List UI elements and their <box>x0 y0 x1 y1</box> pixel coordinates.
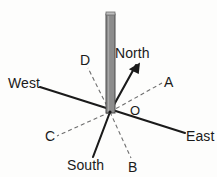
label-origin: O <box>130 104 140 117</box>
label-north: North <box>115 46 150 60</box>
label-ray-a: A <box>164 75 173 89</box>
compass-diagram: North South East West O A B C D <box>0 0 217 177</box>
label-east: East <box>186 129 214 143</box>
dashed-ray-b <box>110 112 131 158</box>
origin-point <box>108 110 111 113</box>
vertical-pole-group <box>106 12 115 113</box>
label-south: South <box>67 158 104 172</box>
label-west: West <box>8 76 40 90</box>
label-ray-c: C <box>45 129 55 143</box>
label-ray-b: B <box>128 160 137 174</box>
label-ray-d: D <box>80 53 90 67</box>
pole-body <box>106 14 115 113</box>
pole-cap <box>106 12 115 15</box>
